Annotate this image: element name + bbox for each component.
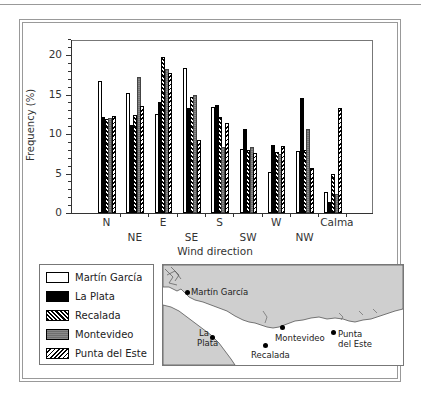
bar-ne-punta-del-este	[140, 106, 144, 213]
y-tick-mark	[66, 95, 71, 96]
y-tick-mark	[68, 71, 71, 72]
y-tick-label: 15	[42, 88, 62, 100]
x-tick-label: NW	[295, 231, 313, 243]
y-tick-mark	[68, 63, 71, 64]
legend-item-martin-garcia: Martín García	[46, 271, 142, 283]
swatch-grey-icon	[46, 329, 69, 340]
y-tick-mark	[68, 205, 71, 206]
map-label-montevideo: Montevideo	[275, 333, 325, 343]
x-tick-mark	[262, 213, 263, 217]
map-label-martin-garcia: Martín García	[191, 287, 248, 297]
y-tick-label: 20	[42, 48, 62, 60]
map-marker-montevideo	[280, 325, 285, 330]
x-tick-label: E	[160, 216, 167, 228]
bar-w-punta-del-este	[281, 146, 285, 213]
map-marker-martin-garcia	[185, 290, 190, 295]
y-tick-mark	[68, 39, 71, 40]
y-tick-mark	[68, 181, 71, 182]
y-tick-mark	[68, 87, 71, 88]
y-tick-mark	[68, 110, 71, 111]
x-tick-label: W	[271, 216, 281, 228]
x-tick-mark	[290, 213, 291, 217]
swatch-black-icon	[46, 291, 69, 302]
swatch-white-icon	[46, 272, 69, 283]
legend-item-montevideo: Montevideo	[46, 328, 133, 340]
map-marker-recalada	[263, 343, 268, 348]
map-label-la-plata: La Plata	[197, 328, 211, 348]
legend-item-la-plata: La Plata	[46, 290, 115, 302]
y-tick-label: 5	[42, 167, 62, 179]
bar-se-punta-del-este	[197, 140, 201, 213]
location-map: Martín García La Plata Recalada Montevid…	[162, 264, 404, 366]
y-tick-label: 0	[42, 206, 62, 218]
y-tick-mark	[66, 174, 71, 175]
y-tick-mark	[68, 166, 71, 167]
y-axis	[71, 40, 72, 214]
x-tick-mark	[233, 213, 234, 217]
swatch-hatch-icon	[46, 310, 69, 321]
map-label-punta-del-este: Punta del Este	[338, 329, 376, 349]
swatch-reverse-hatch-icon	[46, 348, 69, 359]
bar-e-punta-del-este	[168, 73, 172, 213]
legend-label: Martín García	[75, 272, 142, 283]
x-tick-label: N	[103, 216, 111, 228]
x-tick-mark	[120, 213, 121, 217]
legend: Martín García La Plata Recalada Montevid…	[39, 264, 154, 365]
legend-label: Recalada	[75, 310, 121, 321]
legend-label: La Plata	[75, 291, 115, 302]
x-tick-mark	[205, 213, 206, 217]
x-axis-title: Wind direction	[177, 245, 253, 257]
bar-sw-punta-del-este	[253, 153, 257, 213]
x-tick-mark	[318, 213, 319, 217]
x-tick-label: S	[216, 216, 223, 228]
y-tick-mark	[68, 197, 71, 198]
map-marker-punta-del-este	[331, 330, 336, 335]
x-tick-label: SE	[185, 231, 198, 243]
y-tick-mark	[68, 126, 71, 127]
y-tick-mark	[68, 142, 71, 143]
y-tick-mark	[68, 118, 71, 119]
legend-item-recalada: Recalada	[46, 309, 121, 321]
top-rule	[0, 4, 421, 5]
x-tick-mark	[148, 213, 149, 217]
y-tick-mark	[66, 55, 71, 56]
y-tick-mark	[68, 189, 71, 190]
y-tick-mark	[68, 102, 71, 103]
bar-n-punta-del-este	[112, 116, 116, 213]
legend-label: Punta del Este	[75, 348, 147, 359]
y-tick-mark	[68, 158, 71, 159]
y-tick-mark	[68, 79, 71, 80]
map-label-recalada: Recalada	[251, 350, 290, 360]
y-tick-mark	[68, 47, 71, 48]
legend-label: Montevideo	[75, 329, 133, 340]
legend-item-punta-del-este: Punta del Este	[46, 347, 147, 359]
x-axis	[71, 213, 373, 214]
bar-calma-punta-del-este	[338, 108, 342, 213]
y-tick-mark	[66, 134, 71, 135]
y-tick-mark	[68, 150, 71, 151]
x-tick-mark	[177, 213, 178, 217]
y-tick-label: 10	[42, 127, 62, 139]
y-axis-title: Frequency (%)	[25, 89, 36, 161]
x-tick-label: Calma	[320, 216, 353, 228]
bar-s-punta-del-este	[225, 123, 229, 213]
x-tick-label: SW	[239, 231, 256, 243]
bar-nw-punta-del-este	[310, 168, 314, 213]
y-tick-mark	[66, 213, 71, 214]
x-tick-label: NE	[128, 231, 143, 243]
